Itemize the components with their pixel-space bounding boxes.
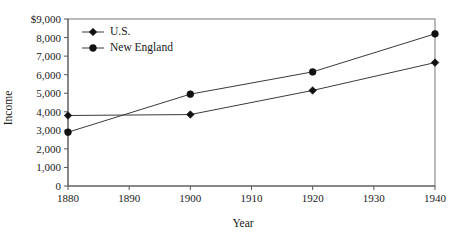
data-point-marker	[89, 28, 97, 36]
x-tick-label: 1930	[363, 192, 386, 204]
x-tick-label: 1910	[241, 192, 264, 204]
y-tick-label: 4,000	[36, 106, 61, 118]
x-tick-label: 1880	[57, 192, 80, 204]
line-chart: 1880189019001910192019301940 01,0002,000…	[0, 0, 458, 243]
x-axis-title: Year	[232, 217, 253, 229]
data-point-marker	[187, 111, 195, 119]
x-axis-tick-labels: 1880189019001910192019301940	[57, 192, 447, 204]
x-tick-label: 1940	[424, 192, 447, 204]
data-point-marker	[431, 59, 439, 67]
data-point-marker	[65, 129, 72, 136]
series-u-s	[64, 59, 439, 119]
x-tick-label: 1890	[118, 192, 141, 204]
x-tick-label: 1920	[302, 192, 325, 204]
x-tick-label: 1900	[179, 192, 202, 204]
data-point-marker	[90, 45, 97, 52]
chart-legend: U.S.New England	[82, 25, 173, 54]
y-tick-label: $9,000	[31, 13, 62, 25]
legend-item: U.S.	[82, 25, 131, 37]
legend-label: U.S.	[110, 25, 131, 37]
y-tick-label: 6,000	[36, 69, 61, 81]
y-tick-label: 5,000	[36, 87, 61, 99]
y-tick-label: 2,000	[36, 143, 61, 155]
y-tick-label: 3,000	[36, 124, 61, 136]
data-point-marker	[309, 68, 316, 75]
chart-figure: 1880189019001910192019301940 01,0002,000…	[0, 0, 458, 243]
legend-label: New England	[110, 41, 173, 54]
data-point-marker	[432, 30, 439, 37]
y-axis-ticks	[64, 19, 68, 186]
y-tick-label: 7,000	[36, 50, 61, 62]
y-tick-label: 1,000	[36, 161, 61, 173]
legend-item: New England	[82, 41, 173, 54]
y-axis-tick-labels: 01,0002,0003,0004,0005,0006,0007,0008,00…	[31, 13, 62, 192]
y-axis-title: Income	[2, 91, 14, 125]
data-point-marker	[64, 112, 72, 120]
data-point-marker	[187, 91, 194, 98]
data-point-marker	[309, 87, 317, 95]
y-tick-label: 0	[56, 180, 62, 192]
y-tick-label: 8,000	[36, 32, 61, 44]
x-axis-ticks	[68, 186, 435, 190]
